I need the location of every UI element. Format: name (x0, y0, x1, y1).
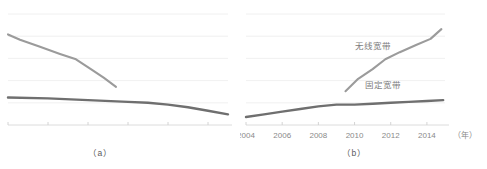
x-tick-label-0: 2004 (240, 131, 255, 140)
x-tick-label-1: 2006 (273, 131, 291, 140)
chart-panel-a (0, 0, 240, 169)
series-label-固定宽带: 固定宽带 (365, 80, 401, 90)
series-line-declining-upper (8, 34, 116, 86)
chart-panel-b: 0%25%50%75%100%125%200420062008201020122… (240, 0, 487, 169)
series-label-无线宽带: 无线宽带 (355, 41, 391, 51)
caption-a: （a） (0, 146, 200, 158)
x-tick-label-5: 2014 (418, 131, 436, 140)
x-tick-label-3: 2010 (346, 131, 364, 140)
series-line-declining-lower (8, 97, 228, 114)
x-tick-label-4: 2012 (382, 131, 400, 140)
chart-a-canvas (0, 0, 240, 140)
caption-b: （b） (240, 146, 468, 158)
x-tick-label-2: 2008 (309, 131, 327, 140)
x-axis-unit-label: （年） (453, 130, 477, 140)
dual-line-chart-figure: （a） 0%25%50%75%100%125%20042006200820102… (0, 0, 487, 169)
chart-b-canvas: 0%25%50%75%100%125%200420062008201020122… (240, 0, 487, 140)
